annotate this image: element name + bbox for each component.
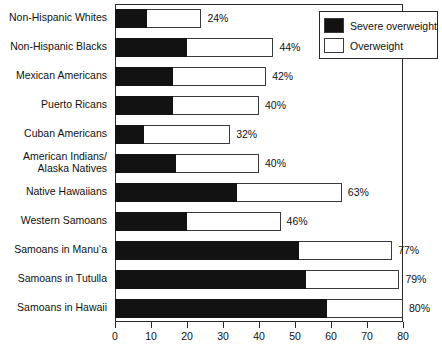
legend-label-overweight: Overweight <box>350 40 403 52</box>
bar-segment-severe-overweight <box>115 67 173 86</box>
x-axis-tick-label: 40 <box>244 330 274 342</box>
bar-row: 46% <box>115 212 403 231</box>
bar-row: 77% <box>115 241 403 260</box>
overweight-prevalence-chart: Non-Hispanic WhitesNon-Hispanic BlacksMe… <box>0 0 442 358</box>
legend-swatch-severe-overweight <box>324 18 344 33</box>
category-label: Non-Hispanic Blacks <box>10 41 107 53</box>
x-axis-tick <box>223 322 224 328</box>
category-label: Western Samoans <box>21 215 107 227</box>
x-axis-tick <box>295 322 296 328</box>
category-label: Mexican Americans <box>16 70 107 82</box>
bar-segment-severe-overweight <box>115 183 237 202</box>
x-axis-tick <box>187 322 188 328</box>
category-label: Samoans in Manu‘a <box>14 244 107 256</box>
bar-segment-severe-overweight <box>115 9 147 28</box>
bar-value-label: 77% <box>398 244 419 257</box>
bar-row: 80% <box>115 299 403 318</box>
bar-value-label: 40% <box>265 99 286 112</box>
bar-value-label: 46% <box>287 215 308 228</box>
x-axis-tick <box>259 322 260 328</box>
x-axis-tick <box>331 322 332 328</box>
bar-value-label: 80% <box>409 302 430 315</box>
category-label: Puerto Ricans <box>41 99 107 111</box>
x-axis-tick-label: 70 <box>352 330 382 342</box>
bar-row: 32% <box>115 125 403 144</box>
x-axis-tick <box>403 322 404 328</box>
x-axis: 01020304050607080 <box>115 322 403 356</box>
bar-segment-severe-overweight <box>115 38 187 57</box>
category-label: American Indians/ Alaska Natives <box>23 151 107 174</box>
x-axis-tick-label: 10 <box>136 330 166 342</box>
bar-segment-severe-overweight <box>115 270 306 289</box>
bar-segment-severe-overweight <box>115 125 144 144</box>
x-axis-tick-label: 30 <box>208 330 238 342</box>
x-axis-tick <box>115 322 116 328</box>
bar-value-label: 32% <box>236 128 257 141</box>
bar-row: 40% <box>115 96 403 115</box>
bar-value-label: 79% <box>405 273 426 286</box>
bar-value-label: 63% <box>348 186 369 199</box>
bar-value-label: 42% <box>272 70 293 83</box>
x-axis-tick-label: 60 <box>316 330 346 342</box>
category-label: Cuban Americans <box>24 128 107 140</box>
x-axis-tick-label: 20 <box>172 330 202 342</box>
legend-label-severe-overweight: Severe overweight <box>350 20 437 32</box>
bar-row: 42% <box>115 67 403 86</box>
legend-item-overweight: Overweight <box>324 36 437 55</box>
bar-value-label: 40% <box>265 157 286 170</box>
bar-row: 79% <box>115 270 403 289</box>
bar-segment-severe-overweight <box>115 154 176 173</box>
category-label: Non-Hispanic Whites <box>9 12 107 24</box>
legend-swatch-overweight <box>324 38 344 53</box>
bar-row: 40% <box>115 154 403 173</box>
bar-value-label: 24% <box>207 12 228 25</box>
bar-segment-severe-overweight <box>115 96 173 115</box>
bar-segment-severe-overweight <box>115 212 187 231</box>
x-axis-tick <box>151 322 152 328</box>
x-axis-tick-label: 80 <box>388 330 418 342</box>
bar-segment-severe-overweight <box>115 241 299 260</box>
chart-legend: Severe overweight Overweight <box>319 11 438 59</box>
category-label-column: Non-Hispanic WhitesNon-Hispanic BlacksMe… <box>0 0 111 322</box>
bar-row: 63% <box>115 183 403 202</box>
x-axis-tick-label: 50 <box>280 330 310 342</box>
x-axis-tick-label: 0 <box>100 330 130 342</box>
category-label: Samoans in Tutulla <box>18 273 107 285</box>
category-label: Samoans in Hawaii <box>17 302 107 314</box>
bar-segment-severe-overweight <box>115 299 327 318</box>
category-label: Native Hawaiians <box>26 186 107 198</box>
legend-item-severe-overweight: Severe overweight <box>324 16 437 35</box>
bar-value-label: 44% <box>279 41 300 54</box>
x-axis-tick <box>367 322 368 328</box>
